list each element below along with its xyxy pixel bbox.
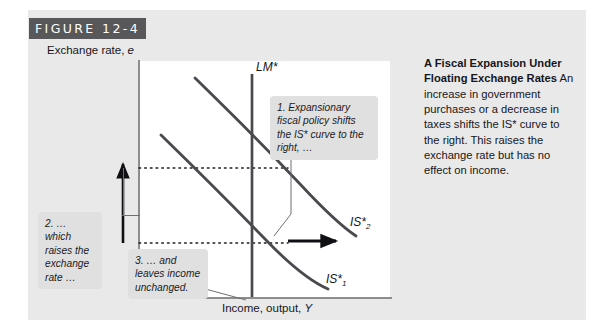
chart-area: Exchange rate, e Income, output, Y (38, 44, 398, 314)
figure-caption: A Fiscal Expansion Under Floating Exchan… (424, 56, 576, 179)
is-star-1-label-text: IS* (326, 272, 342, 286)
figure-number-badge: FIGURE 12-4 (29, 18, 146, 39)
is-star-2-label-subscript: 2 (366, 222, 370, 231)
figure-caption-body: An increase in government purchases or a… (424, 72, 573, 176)
is-star-2-label: IS*2 (350, 215, 370, 231)
lm-star-label: LM* (256, 60, 277, 74)
annotation-note-1: 1. Expansionary fiscal policy shifts the… (270, 96, 378, 160)
is-star-1-label: IS*1 (326, 272, 346, 288)
annotation-note-2: 2. … which raises the exchange rate … (38, 212, 102, 289)
note1-leader-line-elbow (274, 214, 291, 236)
is-star-1-label-subscript: 1 (342, 279, 346, 288)
figure-container: FIGURE 12-4 Exchange rate, e Income, out… (0, 0, 601, 334)
note2-bracket-horizontal (122, 215, 140, 216)
is-star-2-label-text: IS* (350, 215, 366, 229)
figure-caption-title: A Fiscal Expansion Under Floating Exchan… (424, 57, 562, 84)
note2-bracket-vertical (123, 168, 124, 215)
annotation-note-3: 3. … and leaves income unchanged. (128, 249, 208, 299)
